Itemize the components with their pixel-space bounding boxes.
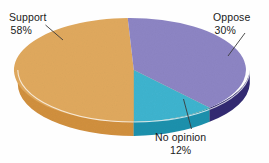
pie-chart: Support 58% Oppose 30% No opinion 12% (0, 0, 269, 163)
slice-label-oppose-name: Oppose (213, 11, 250, 24)
slice-label-support-value: 58% (9, 24, 46, 37)
slice-label-no-opinion-value: 12% (155, 144, 206, 157)
slice-label-no-opinion-name: No opinion (155, 131, 206, 144)
slice-label-no-opinion: No opinion 12% (155, 131, 206, 156)
slice-label-oppose: Oppose 30% (213, 11, 250, 36)
pie-top-face (14, 18, 246, 122)
slice-label-oppose-value: 30% (213, 24, 250, 37)
slice-label-support: Support 58% (9, 11, 46, 36)
slice-label-support-name: Support (9, 11, 46, 24)
